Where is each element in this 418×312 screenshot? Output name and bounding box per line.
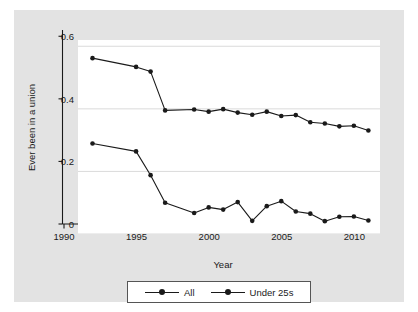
data-point-marker — [148, 173, 153, 178]
data-point-marker — [221, 107, 226, 112]
data-point-marker — [250, 219, 255, 224]
data-point-marker — [264, 204, 269, 209]
data-point-marker — [308, 211, 313, 216]
data-point-marker — [163, 108, 168, 113]
legend-label-under-25s: Under 25s — [250, 287, 294, 298]
data-point-marker — [366, 218, 371, 223]
circle-marker-icon — [211, 287, 245, 297]
data-point-marker — [279, 199, 284, 204]
data-point-marker — [163, 200, 168, 205]
data-point-marker — [293, 113, 298, 118]
x-axis-title: Year — [14, 259, 418, 270]
y-axis-title: Ever been in a union — [26, 48, 37, 208]
data-point-marker — [192, 211, 197, 216]
data-point-marker — [235, 110, 240, 115]
data-point-marker — [221, 207, 226, 212]
data-point-marker — [293, 209, 298, 214]
data-point-marker — [366, 128, 371, 133]
data-point-marker — [352, 123, 357, 128]
data-point-marker — [308, 120, 313, 125]
data-point-marker — [206, 109, 211, 114]
data-point-marker — [264, 109, 269, 114]
circle-marker-icon — [145, 287, 179, 297]
plot-svg — [78, 40, 380, 234]
chart-legend: All Under 25s — [127, 281, 311, 303]
plot-area — [78, 40, 380, 234]
data-point-marker — [337, 124, 342, 129]
graph-region: 00.20.40.6 19901995200020052010 Ever bee… — [14, 10, 404, 302]
data-point-marker — [323, 219, 328, 224]
data-point-marker — [206, 205, 211, 210]
data-point-marker — [323, 121, 328, 126]
legend-label-all: All — [184, 287, 195, 298]
data-point-marker — [250, 112, 255, 117]
data-point-marker — [148, 69, 153, 74]
x-tick-label: 1990 — [53, 231, 74, 242]
series-line-0 — [93, 58, 369, 130]
data-point-marker — [134, 65, 139, 70]
data-point-marker — [192, 107, 197, 112]
legend-entry-all[interactable]: All — [145, 287, 195, 298]
data-point-marker — [90, 141, 95, 146]
data-point-marker — [134, 149, 139, 154]
chart-page: 00.20.40.6 19901995200020052010 Ever bee… — [0, 0, 418, 312]
legend-entry-under-25s[interactable]: Under 25s — [211, 287, 294, 298]
series-line-1 — [93, 144, 369, 222]
data-point-marker — [352, 214, 357, 219]
data-point-marker — [337, 214, 342, 219]
data-point-marker — [235, 200, 240, 205]
data-point-marker — [279, 114, 284, 119]
data-point-marker — [90, 56, 95, 61]
